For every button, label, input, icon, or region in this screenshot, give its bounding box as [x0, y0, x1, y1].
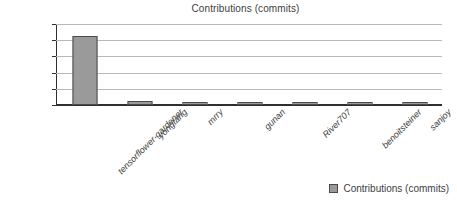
- bar-slot: [332, 24, 387, 105]
- bars-layer: [57, 24, 442, 105]
- y-axis-tick: [52, 40, 56, 41]
- x-axis-tick-label: sanjoy: [428, 107, 453, 132]
- bar[interactable]: [292, 102, 317, 105]
- y-axis-tick: [52, 89, 56, 90]
- bar[interactable]: [402, 102, 427, 105]
- bar[interactable]: [72, 36, 97, 105]
- bar-slot: [167, 24, 222, 105]
- bar[interactable]: [347, 102, 372, 105]
- x-axis-tick-label: mrry: [205, 107, 225, 127]
- y-axis-tick: [52, 105, 56, 106]
- bar-slot: [57, 24, 112, 105]
- bar-chart: Contributions (commits) 05,00010,00015,0…: [0, 0, 457, 202]
- bar[interactable]: [127, 101, 152, 105]
- y-axis-tick: [52, 73, 56, 74]
- bar-slot: [112, 24, 167, 105]
- plot-area: 05,00010,00015,00020,00025,000: [56, 24, 442, 105]
- x-axis-tick-label: benoitsteiner: [380, 107, 424, 151]
- bar[interactable]: [182, 102, 207, 105]
- x-axis-tick-label: River707: [321, 107, 354, 140]
- legend-swatch-contributions: [329, 184, 338, 193]
- bar-slot: [222, 24, 277, 105]
- chart-title: Contributions (commits): [0, 3, 457, 14]
- y-axis-tick: [52, 24, 56, 25]
- bar-slot: [387, 24, 442, 105]
- y-axis-tick: [52, 56, 56, 57]
- bar-slot: [277, 24, 332, 105]
- x-axis-tick-label: gunan: [262, 107, 287, 132]
- chart-legend: Contributions (commits): [329, 183, 449, 194]
- bar[interactable]: [237, 102, 262, 105]
- x-axis-labels: tensorflower-gardeneryongtangmrrygunanRi…: [56, 107, 442, 177]
- legend-label-contributions: Contributions (commits): [343, 183, 449, 194]
